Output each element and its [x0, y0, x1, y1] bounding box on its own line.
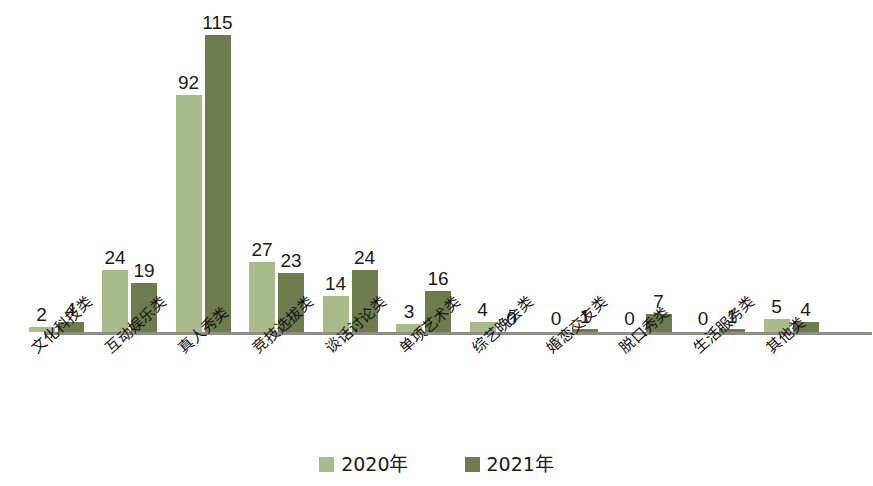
bar-value-label: 24 [104, 248, 125, 267]
chart-legend: 2020年2021年 [0, 455, 873, 474]
bar-value-label: 92 [178, 73, 199, 92]
bar-value-label: 23 [280, 251, 301, 270]
bar-value-label: 16 [427, 269, 448, 288]
x-axis-line [44, 332, 872, 335]
bar-value-label: 14 [325, 274, 346, 293]
legend-item[interactable]: 2021年 [465, 455, 554, 474]
bar-value-label: 5 [771, 297, 782, 316]
bar-value-label: 4 [800, 300, 811, 319]
legend-label: 2020年 [341, 455, 408, 474]
legend-label: 2021年 [487, 455, 554, 474]
bar: 92 [176, 95, 202, 332]
bar-value-label: 24 [354, 248, 375, 267]
plot-area: 24241992115272314243164001070154 文化科技类互动… [0, 0, 873, 340]
bar-value-label: 27 [251, 240, 272, 259]
bar: 115 [205, 35, 231, 332]
bar-rect [176, 95, 202, 332]
bar-value-label: 19 [133, 261, 154, 280]
bar-chart: 24241992115272314243164001070154 文化科技类互动… [0, 0, 873, 486]
legend-swatch-icon [465, 457, 480, 472]
bar-rect [205, 35, 231, 332]
legend-swatch-icon [319, 457, 334, 472]
bar-value-label: 2 [36, 305, 47, 324]
bar-value-label: 3 [404, 302, 415, 321]
bar-value-label: 115 [202, 13, 232, 32]
legend-item[interactable]: 2020年 [319, 455, 408, 474]
bar-value-label: 4 [477, 300, 488, 319]
